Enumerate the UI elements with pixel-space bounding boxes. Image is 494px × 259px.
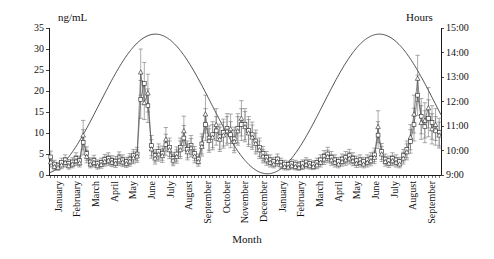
data-point-triangle (203, 112, 208, 116)
data-point-square (376, 133, 380, 137)
y2-axis-title: Hours (406, 11, 433, 23)
data-point-triangle (415, 76, 420, 80)
month-tick-label: July (389, 181, 400, 198)
month-tick-label: February (295, 181, 306, 217)
data-point-square (142, 82, 146, 86)
right-axis-ticks: 9:0010:0011:0012:0013:0014:0015:00 (441, 22, 469, 180)
y2-tick-label: 15:00 (446, 22, 469, 33)
data-point-triangle (182, 129, 187, 133)
month-tick-label: August (407, 181, 418, 210)
y2-tick-label: 11:00 (446, 120, 468, 131)
month-tick-label: August (183, 181, 194, 210)
y-tick-label: 35 (34, 22, 44, 33)
y2-tick-label: 9:00 (446, 169, 464, 180)
month-tick-label: April (109, 181, 120, 202)
month-tick-label: March (90, 181, 101, 207)
y-tick-label: 10 (34, 127, 44, 138)
left-axis-ticks: 05101520253035 (34, 22, 49, 180)
x-axis-title: Month (232, 233, 262, 245)
data-point-triangle (146, 91, 151, 95)
data-point-square (419, 114, 423, 118)
month-tick-label: October (221, 180, 232, 213)
y2-tick-label: 14:00 (446, 47, 469, 58)
month-tick-label: December (258, 180, 269, 222)
data-point-triangle (81, 133, 86, 137)
y2-tick-label: 10:00 (446, 145, 469, 156)
data-point-triangle (376, 124, 381, 128)
seasonal-vitamin-d-chart: ng/mL Hours 05101520253035 9:0010:0011:0… (0, 0, 494, 259)
month-tick-label: June (146, 180, 157, 199)
data-point-square (182, 136, 186, 140)
data-point-square (423, 125, 427, 129)
month-tick-label: February (71, 181, 82, 217)
x-axis-month-labels: JanuaryFebruaryMarchAprilMayJuneJulyAugu… (53, 180, 437, 223)
figure-container: ng/mL Hours 05101520253035 9:0010:0011:0… (0, 0, 494, 259)
month-tick-label: January (53, 181, 64, 212)
y2-tick-label: 12:00 (446, 96, 469, 107)
month-tick-label: January (277, 181, 288, 212)
month-tick-label: September (426, 180, 437, 223)
data-point-triangle (426, 106, 431, 110)
data-point-square (229, 133, 233, 137)
month-tick-label: November (239, 180, 250, 223)
data-point-square (240, 123, 244, 127)
data-point-square (409, 140, 413, 144)
month-tick-label: July (165, 181, 176, 198)
month-tick-label: September (202, 180, 213, 223)
data-point-square (164, 143, 168, 147)
data-point-square (412, 123, 416, 127)
y-tick-label: 30 (34, 43, 44, 54)
y-tick-label: 20 (34, 85, 44, 96)
month-tick-label: March (314, 181, 325, 207)
data-point-square (81, 140, 85, 144)
month-tick-label: June (370, 180, 381, 199)
data-point-square (430, 121, 434, 125)
data-point-square (214, 129, 218, 133)
data-point-square (204, 123, 208, 127)
data-point-square (49, 155, 53, 159)
data-point-triangle (138, 70, 143, 74)
data-point-triangle (164, 137, 169, 141)
month-tick-label: April (333, 181, 344, 202)
month-tick-label: May (127, 181, 138, 199)
data-point-square (416, 93, 420, 97)
y-tick-label: 5 (39, 148, 44, 159)
y-axis-title: ng/mL (58, 11, 88, 23)
data-point-square (427, 116, 431, 120)
y-tick-label: 25 (34, 64, 44, 75)
y2-tick-label: 13:00 (446, 71, 469, 82)
y-tick-label: 0 (39, 169, 44, 180)
data-point-square (139, 98, 143, 102)
y-tick-label: 15 (34, 106, 44, 117)
month-tick-label: May (351, 181, 362, 199)
